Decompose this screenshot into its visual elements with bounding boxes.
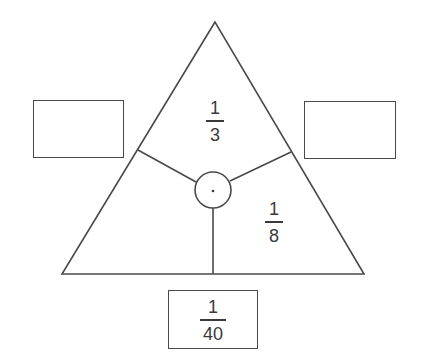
answer-box-bottom: 1 40 xyxy=(168,290,258,349)
divider-left xyxy=(138,150,196,182)
fraction-bar xyxy=(206,120,224,122)
denominator: 8 xyxy=(269,226,279,246)
numerator: 1 xyxy=(269,199,279,219)
answer-box-right[interactable] xyxy=(304,101,396,159)
center-dot xyxy=(212,190,215,193)
fraction-bar xyxy=(265,221,283,223)
fraction-bottom-box: 1 40 xyxy=(169,297,257,344)
answer-box-left[interactable] xyxy=(33,100,124,158)
fraction-bottom-right: 1 8 xyxy=(265,199,283,246)
numerator: 1 xyxy=(208,297,218,317)
numerator: 1 xyxy=(210,98,220,118)
divider-right xyxy=(230,152,291,181)
fraction-top: 1 3 xyxy=(206,98,224,145)
denominator: 3 xyxy=(210,125,220,145)
denominator: 40 xyxy=(203,324,223,344)
fraction-bar xyxy=(200,319,226,321)
